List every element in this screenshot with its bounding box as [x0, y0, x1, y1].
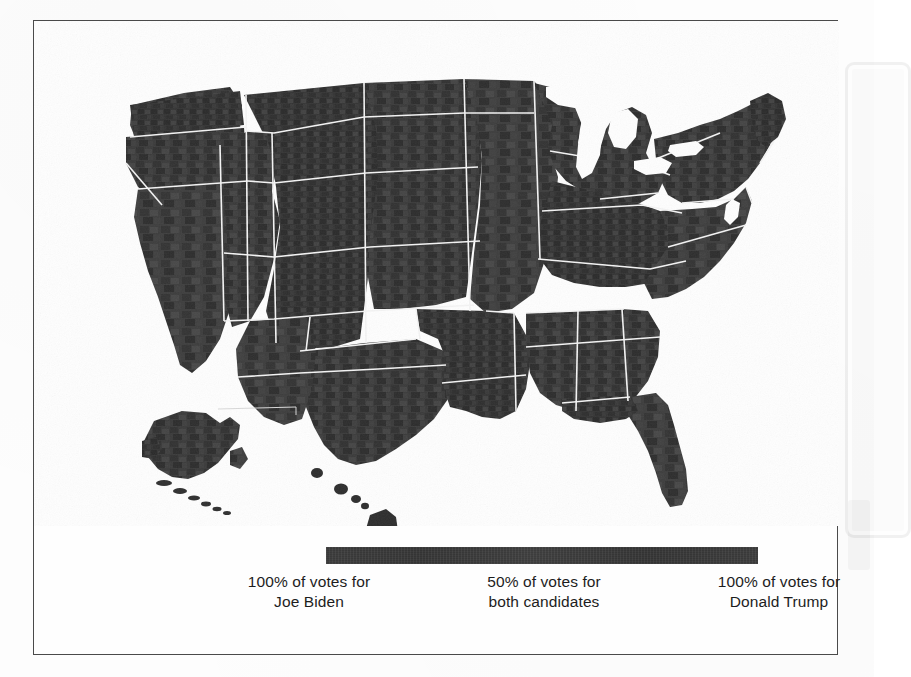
figure-frame: 100% of votes for Joe Biden 50% of votes… [33, 20, 838, 655]
legend-labels: 100% of votes for Joe Biden 50% of votes… [214, 572, 874, 612]
bleed-through-panel-artifact [845, 62, 911, 538]
legend-label-biden-line2: Joe Biden [214, 592, 404, 612]
us-county-choropleth-map [34, 21, 839, 526]
legend-label-trump-line1: 100% of votes for [718, 573, 840, 590]
legend-label-tie-line1: 50% of votes for [487, 573, 601, 590]
legend-label-biden: 100% of votes for Joe Biden [214, 572, 404, 612]
map-legend: 100% of votes for Joe Biden 50% of votes… [34, 526, 839, 656]
legend-label-tie: 50% of votes for both candidates [449, 572, 639, 612]
legend-label-tie-line2: both candidates [449, 592, 639, 612]
legend-label-trump: 100% of votes for Donald Trump [684, 572, 874, 612]
bleed-through-panel-tail-artifact [848, 500, 870, 570]
map-svg [34, 21, 839, 526]
legend-label-trump-line2: Donald Trump [684, 592, 874, 612]
legend-label-biden-line1: 100% of votes for [248, 573, 370, 590]
vote-share-gradient-bar [326, 547, 758, 564]
